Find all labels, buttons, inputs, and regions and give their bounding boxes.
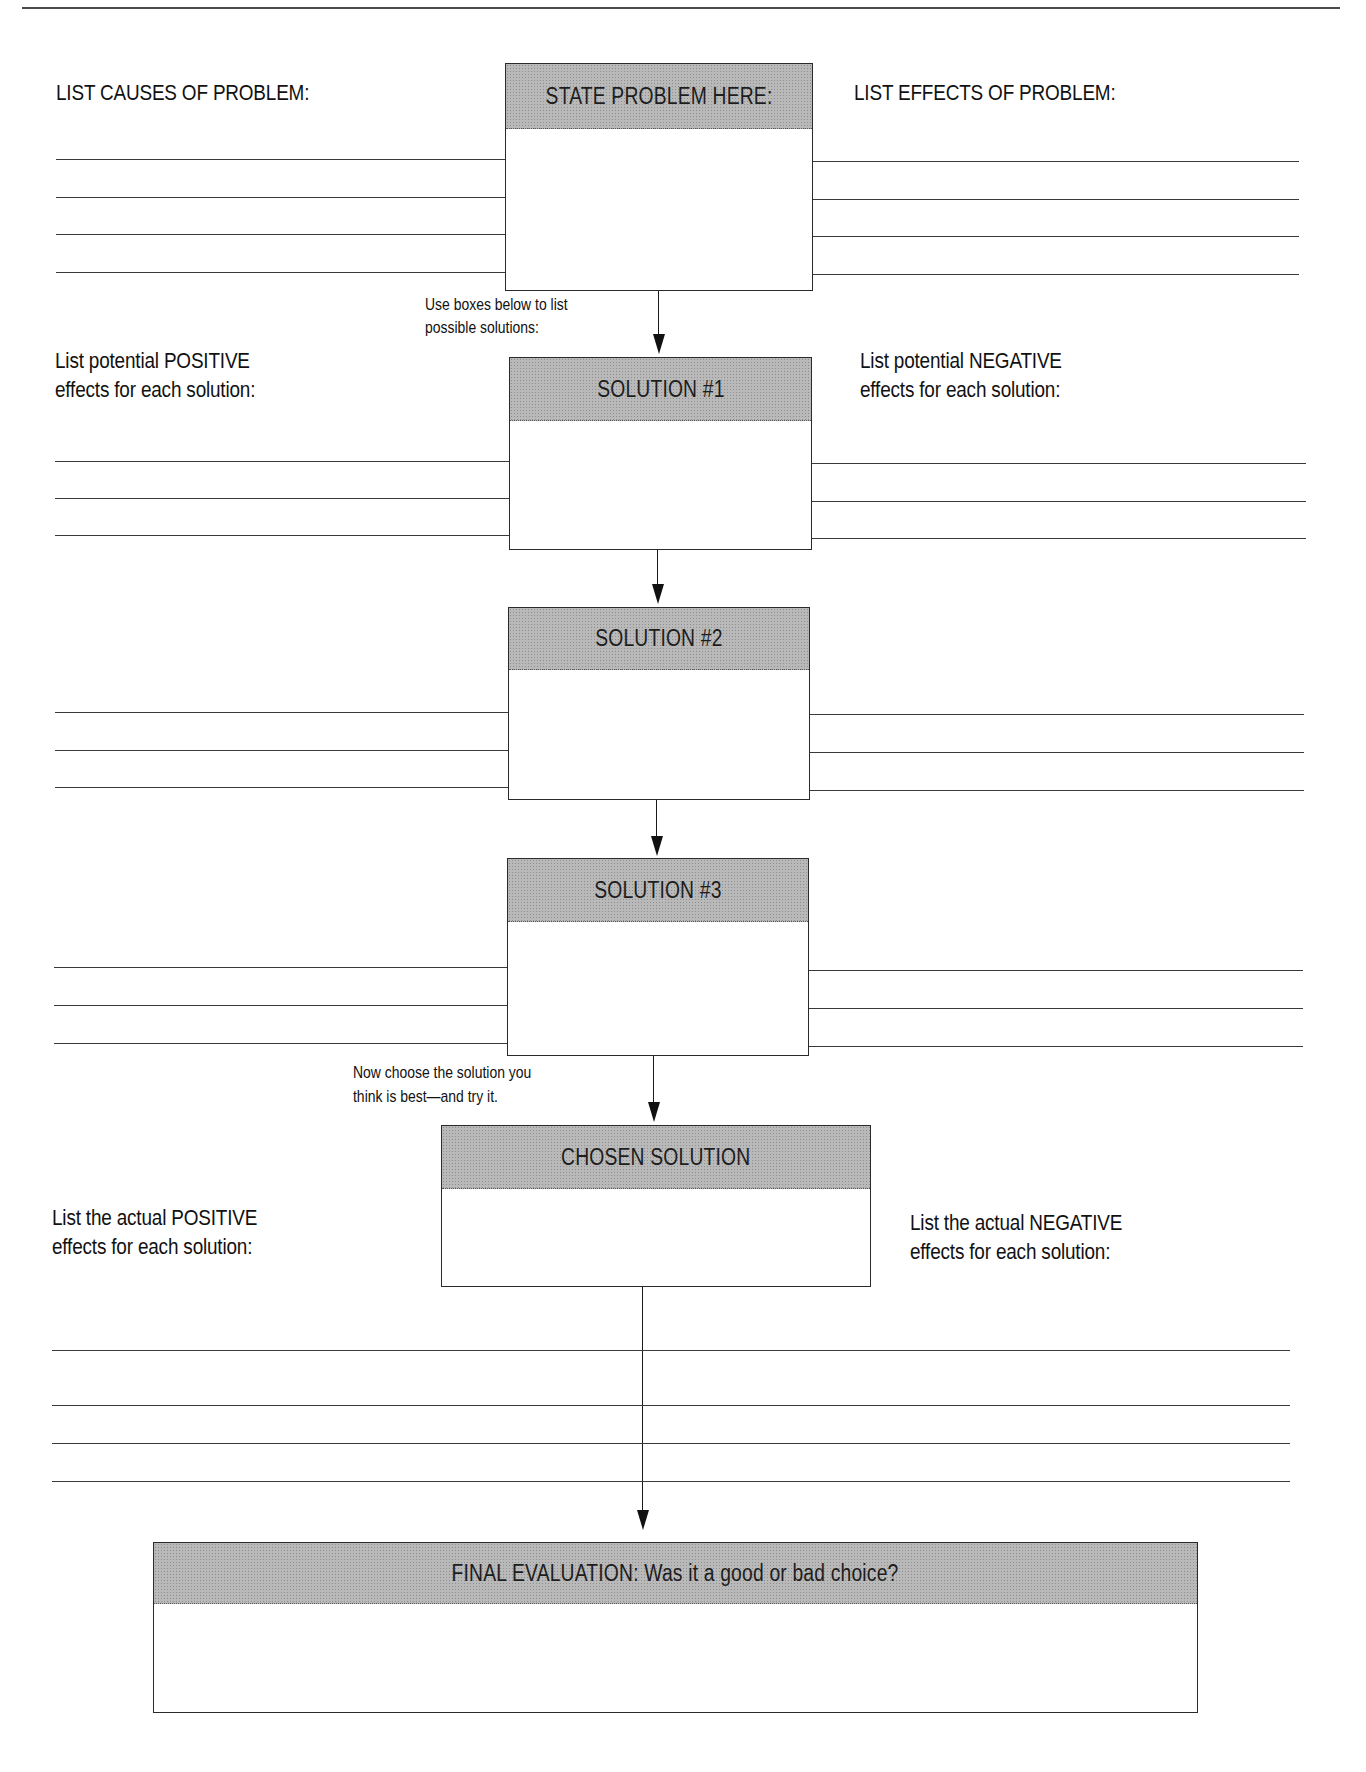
actual-negative-label-line-1: List the actual NEGATIVE xyxy=(910,1208,1122,1237)
effect-line-2[interactable] xyxy=(813,199,1299,200)
effect-line-1[interactable] xyxy=(813,161,1299,162)
final-evaluation-header: FINAL EVALUATION: Was it a good or bad c… xyxy=(154,1543,1197,1604)
solution-3-negative-line-2[interactable] xyxy=(809,1008,1303,1009)
solution-2-negative-line-1[interactable] xyxy=(810,714,1304,715)
solution-1-positive-line-3[interactable] xyxy=(55,535,509,536)
solution-1-header: SOLUTION #1 xyxy=(510,358,811,421)
solution-3-positive-line-3[interactable] xyxy=(54,1043,507,1044)
solution-2-box[interactable]: SOLUTION #2 xyxy=(508,607,810,800)
solution-2-title: SOLUTION #2 xyxy=(595,625,722,652)
actual-positive-label-line-1: List the actual POSITIVE xyxy=(52,1203,257,1232)
potential-positive-label-line-2: effects for each solution: xyxy=(55,375,255,404)
potential-positive-label-line-1: List potential POSITIVE xyxy=(55,346,250,375)
result-line-1[interactable] xyxy=(52,1350,1290,1351)
result-line-4[interactable] xyxy=(52,1481,1290,1482)
solution-2-positive-line-2[interactable] xyxy=(55,750,508,751)
solution-1-positive-line-2[interactable] xyxy=(55,498,509,499)
cause-line-1[interactable] xyxy=(56,159,505,160)
potential-negative-label-line-2: effects for each solution: xyxy=(860,375,1060,404)
effect-line-4[interactable] xyxy=(813,274,1299,275)
cause-line-2[interactable] xyxy=(56,197,505,198)
chosen-solution-box[interactable]: CHOSEN SOLUTION xyxy=(441,1125,871,1287)
connector-line xyxy=(653,1056,654,1106)
solution-2-header: SOLUTION #2 xyxy=(509,608,809,670)
chosen-solution-title: CHOSEN SOLUTION xyxy=(561,1144,750,1171)
arrow-down-icon xyxy=(653,334,665,354)
solution-2-positive-line-1[interactable] xyxy=(55,712,508,713)
solution-1-negative-line-2[interactable] xyxy=(812,501,1306,502)
result-line-2[interactable] xyxy=(52,1405,1290,1406)
problem-box-title: STATE PROBLEM HERE: xyxy=(546,83,773,110)
solution-3-box[interactable]: SOLUTION #3 xyxy=(507,858,809,1056)
problem-box[interactable]: STATE PROBLEM HERE: xyxy=(505,63,813,291)
top-rule xyxy=(22,7,1340,9)
solution-1-negative-line-1[interactable] xyxy=(812,463,1306,464)
problem-box-header: STATE PROBLEM HERE: xyxy=(506,64,812,129)
arrow-down-icon xyxy=(652,584,664,604)
arrow-down-icon xyxy=(651,836,663,856)
solution-2-negative-line-3[interactable] xyxy=(810,790,1304,791)
solution-1-box[interactable]: SOLUTION #1 xyxy=(509,357,812,550)
cause-line-4[interactable] xyxy=(56,272,505,273)
final-evaluation-box[interactable]: FINAL EVALUATION: Was it a good or bad c… xyxy=(153,1542,1198,1713)
solution-1-positive-line-1[interactable] xyxy=(55,461,509,462)
effects-label: LIST EFFECTS OF PROBLEM: xyxy=(854,78,1116,107)
choose-instruction-line-2: think is best—and try it. xyxy=(353,1085,498,1108)
actual-negative-label-line-2: effects for each solution: xyxy=(910,1237,1110,1266)
connector-line xyxy=(657,550,658,588)
potential-negative-label-line-1: List potential NEGATIVE xyxy=(860,346,1062,375)
solutions-instruction-line-1: Use boxes below to list xyxy=(425,293,568,316)
actual-positive-label-line-2: effects for each solution: xyxy=(52,1232,252,1261)
choose-instruction-line-1: Now choose the solution you xyxy=(353,1061,531,1084)
arrow-down-icon xyxy=(648,1102,660,1122)
result-line-3[interactable] xyxy=(52,1443,1290,1444)
arrow-down-icon xyxy=(637,1510,649,1530)
solution-1-title: SOLUTION #1 xyxy=(597,376,724,403)
solution-3-positive-line-2[interactable] xyxy=(54,1005,507,1006)
connector-line xyxy=(656,800,657,840)
solution-2-negative-line-2[interactable] xyxy=(810,752,1304,753)
effect-line-3[interactable] xyxy=(813,236,1299,237)
chosen-solution-header: CHOSEN SOLUTION xyxy=(442,1126,870,1189)
solutions-instruction-line-2: possible solutions: xyxy=(425,316,539,339)
cause-line-3[interactable] xyxy=(56,234,505,235)
solution-3-negative-line-1[interactable] xyxy=(809,970,1303,971)
solution-3-positive-line-1[interactable] xyxy=(54,967,507,968)
final-evaluation-title: FINAL EVALUATION: Was it a good or bad c… xyxy=(452,1560,899,1587)
causes-label: LIST CAUSES OF PROBLEM: xyxy=(56,78,309,107)
solution-2-positive-line-3[interactable] xyxy=(55,787,508,788)
solution-3-header: SOLUTION #3 xyxy=(508,859,808,922)
solution-3-negative-line-3[interactable] xyxy=(809,1046,1303,1047)
solution-1-negative-line-3[interactable] xyxy=(812,538,1306,539)
solution-3-title: SOLUTION #3 xyxy=(594,877,721,904)
connector-line xyxy=(658,291,659,339)
